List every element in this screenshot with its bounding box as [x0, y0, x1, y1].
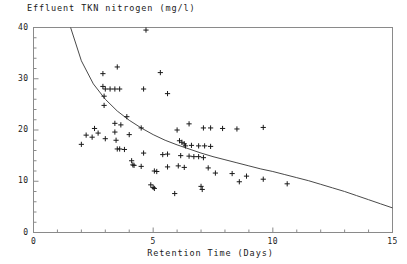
data-point-marker — [208, 125, 213, 130]
data-point-marker — [103, 86, 108, 91]
y-tick-label: 40 — [2, 23, 29, 32]
data-point-marker — [139, 164, 144, 169]
x-tick-label: 10 — [263, 237, 283, 246]
data-point-marker — [117, 146, 122, 151]
data-point-marker — [122, 147, 127, 152]
data-point-marker — [96, 130, 101, 135]
data-point-marker — [148, 182, 153, 187]
data-point-marker — [261, 177, 266, 182]
tick-marks — [34, 28, 393, 233]
data-point-marker — [151, 185, 156, 190]
data-point-marker — [189, 143, 194, 148]
data-point-marker — [117, 86, 122, 91]
data-point-marker — [158, 70, 163, 75]
axis-frame — [34, 28, 393, 233]
data-point-marker — [112, 121, 117, 126]
data-point-marker — [102, 103, 107, 108]
data-point-marker — [208, 144, 213, 149]
data-point-marker — [90, 135, 95, 140]
x-tick-label: 5 — [143, 237, 163, 246]
x-axis-label: Retention Time (Days) — [0, 248, 407, 258]
data-point-marker — [234, 126, 239, 131]
data-point-marker — [100, 71, 105, 76]
data-point-marker — [196, 143, 201, 148]
data-point-marker — [285, 181, 290, 186]
x-tick-label: 0 — [24, 237, 44, 246]
data-point-marker — [182, 165, 187, 170]
data-point-marker — [206, 165, 211, 170]
data-point-marker — [165, 91, 170, 96]
data-point-marker — [100, 84, 105, 89]
data-point-marker — [112, 86, 117, 91]
data-point-marker — [118, 122, 123, 127]
y-tick-label: 30 — [2, 74, 29, 83]
data-point-marker — [175, 127, 180, 132]
data-point-marker — [124, 114, 129, 119]
y-tick-label: 20 — [2, 125, 29, 134]
data-point-marker — [92, 126, 97, 131]
data-point-marker — [244, 174, 249, 179]
data-point-marker — [165, 164, 170, 169]
data-point-marker — [172, 191, 177, 196]
data-point-marker — [79, 142, 84, 147]
data-point-marker — [186, 154, 191, 159]
y-tick-label: 10 — [2, 176, 29, 185]
data-point-marker — [141, 86, 146, 91]
data-point-marker — [201, 155, 206, 160]
data-point-marker — [143, 27, 148, 32]
data-point-marker — [103, 136, 108, 141]
data-point-marker — [130, 162, 135, 167]
data-point-marker — [129, 158, 134, 163]
data-point-marker — [84, 133, 89, 138]
data-point-marker — [154, 169, 159, 174]
data-point-marker — [141, 150, 146, 155]
data-point-markers — [79, 27, 290, 196]
data-point-marker — [112, 129, 117, 134]
data-point-marker — [113, 138, 118, 143]
data-point-marker — [178, 153, 183, 158]
data-point-marker — [152, 168, 157, 173]
data-point-marker — [152, 186, 157, 191]
fitted-curve — [71, 28, 393, 208]
x-axis-label-text: Retention Time (Days) — [133, 248, 273, 258]
data-point-marker — [230, 171, 235, 176]
data-point-marker — [201, 125, 206, 130]
data-point-marker — [115, 64, 120, 69]
y-tick-label: 0 — [2, 228, 29, 237]
chart-title: Effluent TKN nitrogen (mg/l) — [27, 3, 196, 13]
x-tick-label: 15 — [383, 237, 403, 246]
data-point-marker — [261, 125, 266, 130]
scatter-plot-canvas — [0, 0, 407, 264]
data-point-marker — [131, 163, 136, 168]
data-point-marker — [127, 132, 132, 137]
data-point-marker — [160, 152, 165, 157]
data-point-marker — [186, 121, 191, 126]
data-point-marker — [107, 86, 112, 91]
data-point-marker — [191, 154, 196, 159]
data-point-marker — [220, 126, 225, 131]
data-point-marker — [196, 154, 201, 159]
data-point-marker — [102, 94, 107, 99]
data-point-marker — [202, 143, 207, 148]
data-point-marker — [213, 170, 218, 175]
data-point-marker — [198, 184, 203, 189]
data-point-marker — [200, 187, 205, 192]
data-point-marker — [139, 125, 144, 130]
data-point-marker — [237, 179, 242, 184]
data-point-marker — [165, 151, 170, 156]
data-point-marker — [176, 163, 181, 168]
chart-figure: Effluent TKN nitrogen (mg/l) 05101501020… — [0, 0, 407, 264]
